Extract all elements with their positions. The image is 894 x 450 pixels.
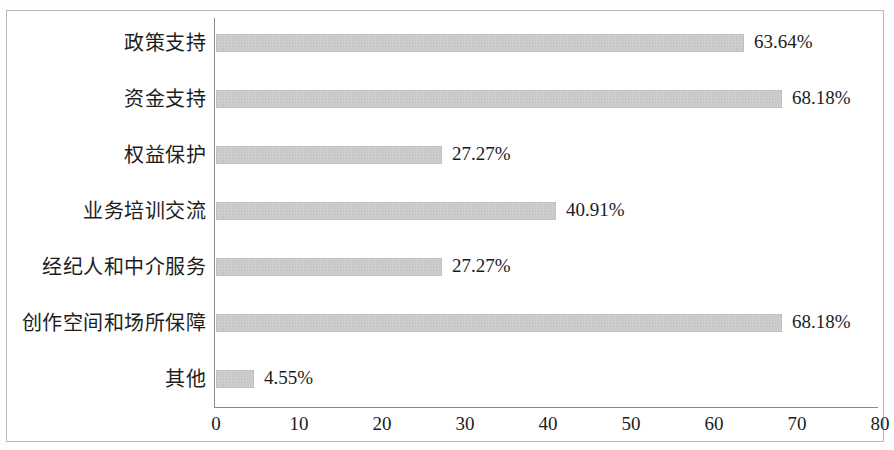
category-label: 业务培训交流 — [83, 199, 206, 223]
category-label: 权益保护 — [124, 143, 206, 167]
bar-value-label: 68.18% — [792, 86, 851, 110]
bar — [216, 314, 782, 332]
bar-row: 资金支持 68.18% — [0, 82, 888, 116]
category-label: 经纪人和中介服务 — [42, 255, 206, 279]
x-tick-label: 40 — [518, 412, 578, 436]
bar — [216, 370, 254, 388]
bar-row: 其他 4.55% — [0, 362, 888, 396]
bar-value-label: 27.27% — [452, 142, 511, 166]
category-label: 政策支持 — [124, 31, 206, 55]
x-tick-label: 60 — [684, 412, 744, 436]
bar — [216, 146, 442, 164]
bar-row: 政策支持 63.64% — [0, 26, 888, 60]
bar-value-label: 27.27% — [452, 254, 511, 278]
bar — [216, 258, 442, 276]
bar — [216, 90, 782, 108]
x-tick-label: 10 — [269, 412, 329, 436]
x-axis-line — [214, 407, 878, 408]
x-tick-label: 80 — [850, 412, 894, 436]
bar-row: 权益保护 27.27% — [0, 138, 888, 172]
category-label: 创作空间和场所保障 — [22, 311, 207, 335]
bar — [216, 202, 556, 220]
x-tick-label: 0 — [186, 412, 246, 436]
x-tick-label: 50 — [601, 412, 661, 436]
bar-value-label: 68.18% — [792, 310, 851, 334]
bar-value-label: 63.64% — [754, 30, 813, 54]
bar-value-label: 40.91% — [566, 198, 625, 222]
bar-row: 业务培训交流 40.91% — [0, 194, 888, 228]
x-tick-label: 30 — [435, 412, 495, 436]
bar-row: 创作空间和场所保障 68.18% — [0, 306, 888, 340]
bar-value-label: 4.55% — [264, 366, 313, 390]
x-tick-label: 70 — [767, 412, 827, 436]
category-label: 其他 — [165, 367, 206, 391]
category-label: 资金支持 — [124, 87, 206, 111]
bar-row: 经纪人和中介服务 27.27% — [0, 250, 888, 284]
bar — [216, 34, 744, 52]
x-tick-label: 20 — [352, 412, 412, 436]
